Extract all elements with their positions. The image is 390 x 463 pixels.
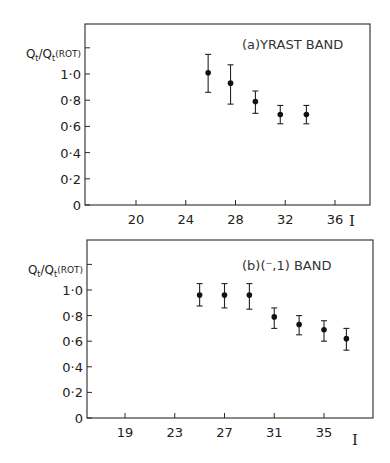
x-tick-label: 31 (266, 425, 283, 440)
data-point (205, 54, 211, 92)
x-axis-label: I (352, 431, 358, 449)
x-tick-label: 19 (117, 425, 134, 440)
y-tick-label: 0·4 (60, 146, 81, 161)
y-tick-label: 0·6 (60, 119, 81, 134)
y-tick-label: 0 (73, 198, 81, 213)
figure: 00·20·40·60·81·0Qt/Qt(ROT)2024283236I(a)… (0, 0, 390, 463)
data-point (303, 105, 309, 123)
panel-b: 00·20·40·60·81·0Qt/Qt(ROT)1923273135I(b)… (28, 240, 373, 449)
x-tick-label: 36 (327, 212, 344, 227)
y-tick-label: 0·6 (62, 334, 83, 349)
data-point (343, 328, 349, 350)
data-point (228, 65, 234, 104)
y-tick-label: 1·0 (60, 67, 81, 82)
y-axis-label: Qt/Qt(ROT) (26, 47, 81, 63)
data-point (252, 91, 258, 113)
y-tick-label: 0·4 (62, 360, 83, 375)
panel-title: (b)(⁻,1) BAND (242, 258, 331, 273)
x-axis-label: I (349, 212, 355, 230)
x-tick-label: 35 (316, 425, 333, 440)
data-point (222, 284, 228, 308)
x-tick-label: 24 (177, 212, 194, 227)
y-tick-label: 0 (75, 411, 83, 426)
data-point (197, 284, 203, 306)
x-tick-label: 32 (277, 212, 294, 227)
y-tick-label: 0·8 (60, 93, 81, 108)
x-tick-label: 20 (128, 212, 145, 227)
data-point (246, 284, 252, 310)
x-tick-label: 27 (216, 425, 233, 440)
panel-a: 00·20·40·60·81·0Qt/Qt(ROT)2024283236I(a)… (26, 24, 370, 230)
data-point (277, 105, 283, 123)
x-tick-label: 23 (166, 425, 183, 440)
x-tick-label: 28 (227, 212, 244, 227)
y-tick-label: 0·8 (62, 309, 83, 324)
y-tick-label: 1·0 (62, 283, 83, 298)
data-point (321, 321, 327, 341)
y-tick-label: 0·2 (62, 385, 83, 400)
y-tick-label: 0·2 (60, 172, 81, 187)
y-axis-label: Qt/Qt(ROT) (28, 263, 83, 279)
data-point (271, 308, 277, 328)
data-point (296, 316, 302, 335)
panel-title: (a)YRAST BAND (242, 37, 343, 52)
